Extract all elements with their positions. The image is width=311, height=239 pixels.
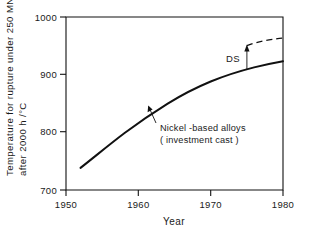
- y-tick-label-700: 700: [40, 185, 57, 196]
- y-tick-labels: 1000 900 800 700: [35, 12, 57, 196]
- y-axis-ticks: [60, 17, 66, 190]
- x-tick-label-1970: 1970: [200, 199, 222, 210]
- x-tick-label-1960: 1960: [127, 199, 149, 210]
- y-tick-label-800: 800: [40, 126, 57, 137]
- series-label-leader-arrowhead: [148, 106, 153, 113]
- series-label-line2: ( investment cast ): [160, 135, 239, 145]
- y-axis-title: Temperature for rupture under 250 MN m-2…: [3, 0, 28, 176]
- ds-annotation-arrow: [244, 45, 249, 70]
- plot-frame-box: [66, 17, 283, 190]
- x-tick-label-1950: 1950: [55, 199, 77, 210]
- series-curve-nickel-based-alloys: [81, 61, 284, 168]
- series-label-leader: [148, 106, 156, 123]
- x-axis-ticks: [66, 190, 283, 196]
- series-curve-ds: [247, 38, 283, 46]
- y-axis-title-line2: after 2000 h /°C: [17, 102, 28, 176]
- y-axis-title-line1: Temperature for rupture under 250 MN m-2: [3, 0, 15, 176]
- y-tick-label-900: 900: [40, 69, 57, 80]
- x-axis-title: Year: [163, 216, 185, 227]
- chart-container: 1000 900 800 700 1950 1960 1970 1980 Yea…: [0, 0, 311, 239]
- x-tick-labels: 1950 1960 1970 1980: [55, 199, 294, 210]
- y-tick-label-1000: 1000: [35, 12, 57, 23]
- x-tick-label-1980: 1980: [272, 199, 294, 210]
- chart-svg: 1000 900 800 700 1950 1960 1970 1980 Yea…: [0, 0, 311, 239]
- y-axis-title-line1-text: Temperature for rupture under 250 MN m: [4, 0, 15, 176]
- series-label-line1: Nickel -based alloys: [160, 123, 246, 133]
- ds-label: DS: [226, 53, 240, 64]
